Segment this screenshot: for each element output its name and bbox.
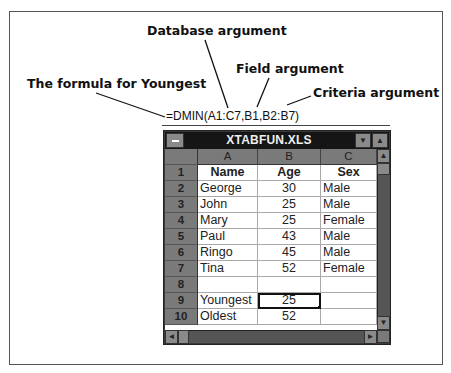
cell-b9-value: 25 [282,293,296,307]
row-header[interactable]: 4 [165,213,198,229]
field-argument-label: Field argument [236,61,344,76]
vertical-scrollbar[interactable]: ▲ ▼ [377,149,390,330]
cell-c10[interactable] [321,309,377,325]
cell-a5[interactable]: Paul [198,229,258,245]
table-row: 1 Name Age Sex [165,165,377,181]
column-header-b[interactable]: B [258,149,321,165]
cell-c7[interactable]: Female [321,261,377,277]
row-header[interactable]: 9 [165,293,198,309]
row-header[interactable]: 5 [165,229,198,245]
cell-b6[interactable]: 45 [258,245,321,261]
scroll-down-button[interactable]: ▼ [377,316,390,330]
down-arrow-icon: ▼ [380,318,388,327]
cell-c1[interactable]: Sex [321,165,377,181]
table-row: 9 Youngest 25 [165,293,377,309]
cell-c2[interactable]: Male [321,181,377,197]
system-menu-button[interactable] [166,133,184,148]
cell-a6[interactable]: Ringo [198,245,258,261]
cell-c9[interactable] [321,293,377,309]
row-header[interactable]: 2 [165,181,198,197]
cell-b8[interactable] [258,277,321,293]
cell-a8[interactable] [198,277,258,293]
cell-a1[interactable]: Name [198,165,258,181]
table-row: 10 Oldest 52 [165,309,377,325]
formula-text: =DMIN(A1:C7,B1,B2:B7) [166,109,299,123]
table-row: 5 Paul 43 Male [165,229,377,245]
maximize-button[interactable]: ▲ [372,133,388,148]
spreadsheet-window: XTABFUN.XLS ▼ ▲ A B C 1 Name Age Sex 2 G… [163,130,391,345]
cell-a7[interactable]: Tina [198,261,258,277]
cell-a9[interactable]: Youngest [198,293,258,309]
cell-c3[interactable]: Male [321,197,377,213]
row-header[interactable]: 10 [165,309,198,325]
scroll-up-button[interactable]: ▲ [377,149,390,163]
formula-youngest-label: The formula for Youngest [27,76,206,91]
table-row: 8 [165,277,377,293]
up-triangle-icon: ▲ [376,136,384,145]
cell-b9-selected[interactable]: 25 [258,293,321,309]
table-row: 6 Ringo 45 Male [165,245,377,261]
minimize-button[interactable]: ▼ [355,133,371,148]
cell-a10[interactable]: Oldest [198,309,258,325]
cell-c5[interactable]: Male [321,229,377,245]
cell-b4[interactable]: 25 [258,213,321,229]
up-arrow-icon: ▲ [380,151,388,160]
row-header[interactable]: 8 [165,277,198,293]
sheet-grid: A B C 1 Name Age Sex 2 George 30 Male 3 … [165,149,377,330]
database-argument-label: Database argument [147,23,287,38]
cell-b5[interactable]: 43 [258,229,321,245]
column-header-row: A B C [165,149,377,165]
cell-a3[interactable]: John [198,197,258,213]
table-row: 7 Tina 52 Female [165,261,377,277]
left-arrow-icon: ◄ [168,332,176,341]
row-header[interactable]: 6 [165,245,198,261]
column-header-a[interactable]: A [198,149,258,165]
cell-c4[interactable]: Female [321,213,377,229]
formula-underline [162,125,390,126]
cell-c8[interactable] [321,277,377,293]
row-header[interactable]: 3 [165,197,198,213]
cell-b2[interactable]: 30 [258,181,321,197]
row-header[interactable]: 1 [165,165,198,181]
cell-b3[interactable]: 25 [258,197,321,213]
table-row: 4 Mary 25 Female [165,213,377,229]
vertical-scroll-thumb[interactable] [377,163,390,175]
column-header-c[interactable]: C [321,149,377,165]
horizontal-scrollbar[interactable]: ◄ ► [165,330,377,343]
cell-a2[interactable]: George [198,181,258,197]
cell-b7[interactable]: 52 [258,261,321,277]
scroll-right-button[interactable]: ► [364,330,377,344]
row-header[interactable]: 7 [165,261,198,277]
select-all-corner[interactable] [165,149,198,165]
scrollbar-corner [377,330,390,343]
criteria-argument-label: Criteria argument [313,85,439,100]
window-title: XTABFUN.XLS [185,133,353,147]
cell-c6[interactable]: Male [321,245,377,261]
right-arrow-icon: ► [367,332,375,341]
cell-b1[interactable]: Age [258,165,321,181]
cell-a4[interactable]: Mary [198,213,258,229]
title-bar[interactable]: XTABFUN.XLS ▼ ▲ [165,132,389,149]
table-row: 3 John 25 Male [165,197,377,213]
horizontal-scroll-thumb[interactable] [178,330,189,344]
table-row: 2 George 30 Male [165,181,377,197]
cell-b10[interactable]: 52 [258,309,321,325]
down-triangle-icon: ▼ [359,136,367,145]
scroll-left-button[interactable]: ◄ [165,330,178,344]
